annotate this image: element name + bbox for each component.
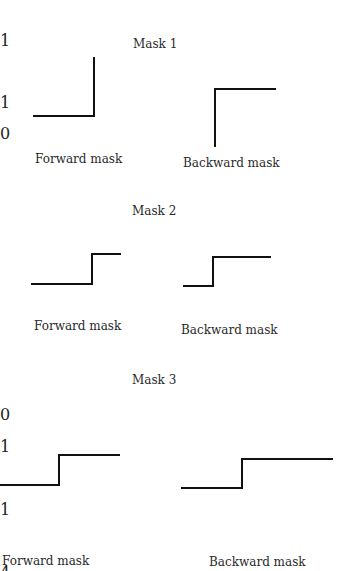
mask-cell <box>0 217 31 248</box>
causal-boundary-line <box>31 283 93 285</box>
mask-cell <box>0 311 32 343</box>
backward-mask-caption: Backward mask <box>181 323 278 337</box>
mask-cell <box>0 374 32 406</box>
backward-mask-caption: Backward mask <box>183 156 280 170</box>
causal-boundary-line <box>91 253 93 284</box>
mask-cell: 1 <box>0 500 32 532</box>
causal-boundary-line <box>58 454 120 456</box>
causal-boundary-line <box>0 484 60 486</box>
causal-boundary-line <box>214 88 276 90</box>
causal-boundary-line <box>183 285 214 287</box>
mask-cell: 1 <box>0 93 31 124</box>
causal-boundary-line <box>241 458 333 460</box>
mask-cell <box>0 342 32 374</box>
mask-cell: 0 <box>0 124 31 155</box>
causal-boundary-line <box>212 256 214 287</box>
mask-cell: 1 <box>0 437 32 469</box>
causal-boundary-line <box>181 487 243 489</box>
forward-mask-caption: Forward mask <box>2 554 89 568</box>
causal-boundary-line <box>58 454 60 485</box>
mask-cell <box>0 186 31 217</box>
mask-cell <box>0 248 31 279</box>
backward-mask-caption: Backward mask <box>209 555 306 569</box>
mask-title: Mask 2 <box>132 204 176 218</box>
causal-boundary-line <box>241 458 243 489</box>
distance-transform-masks-figure: Mask 1110Forward mask011Backward maskMas… <box>0 0 340 571</box>
mask-cell <box>0 155 31 186</box>
causal-boundary-line <box>91 253 121 255</box>
causal-boundary-line <box>212 256 271 258</box>
forward-mask-caption: Forward mask <box>34 319 121 333</box>
forward-mask-caption: Forward mask <box>35 152 122 166</box>
mask-cell <box>0 62 31 93</box>
mask-title: Mask 1 <box>133 37 177 51</box>
mask-cell: 0 <box>0 405 32 437</box>
mask-cell <box>0 0 31 31</box>
causal-boundary-line <box>214 88 216 147</box>
mask-title: Mask 3 <box>132 373 176 387</box>
causal-boundary-line <box>33 115 95 117</box>
mask-cell: 1 <box>0 31 31 62</box>
mask-cell <box>0 279 32 311</box>
causal-boundary-line <box>93 57 95 116</box>
